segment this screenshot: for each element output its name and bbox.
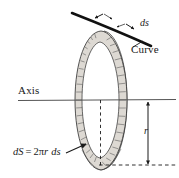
- axis-line: [18, 100, 176, 101]
- axis-label: Axis: [18, 85, 40, 96]
- curve-label: Curve: [131, 44, 159, 55]
- radius-label: r: [144, 126, 148, 136]
- formula-lhs: dS: [13, 146, 24, 157]
- formula-arc-element: ds: [51, 146, 60, 157]
- ds-bracket-arrows: [95, 14, 134, 29]
- formula-radius: r: [44, 146, 49, 157]
- arc-element-label: ds: [140, 18, 149, 28]
- surface-element-formula: dS=2πr ds: [13, 147, 61, 158]
- figure-surface-of-revolution: Axis Curve ds r dS=2πr ds: [0, 0, 179, 178]
- formula-equals: =: [24, 146, 34, 157]
